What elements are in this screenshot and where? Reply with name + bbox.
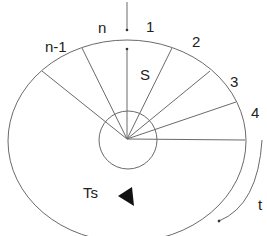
spoke-2 xyxy=(127,48,172,139)
spoke-4 xyxy=(127,102,236,139)
spoke-n-minus-1 xyxy=(82,48,127,139)
label-2: 2 xyxy=(192,33,200,50)
label-1: 1 xyxy=(146,18,154,35)
label-n-minus-1: n-1 xyxy=(45,38,67,55)
time-arc-arrow xyxy=(219,140,262,221)
rotating-sampler-diagram: n 1 2 3 4 n-1 S Ts t xyxy=(0,0,267,236)
label-3: 3 xyxy=(230,73,238,90)
label-4: 4 xyxy=(251,104,259,121)
label-ts: Ts xyxy=(83,184,98,201)
rotation-arrowhead-icon xyxy=(118,187,134,206)
inner-circle xyxy=(99,111,157,169)
spoke-left xyxy=(42,71,127,139)
label-s: S xyxy=(140,66,150,83)
spoke-horizontal xyxy=(127,139,245,140)
label-t: t xyxy=(258,196,263,213)
label-n: n xyxy=(98,19,106,36)
